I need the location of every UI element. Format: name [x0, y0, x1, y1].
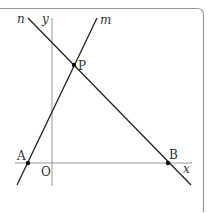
x-axis-label: x [183, 162, 190, 176]
point-p [72, 63, 76, 67]
line-m-label: m [100, 13, 111, 27]
coordinate-diagram: n y m P A O B x [0, 0, 211, 212]
point-b-label: B [169, 148, 178, 162]
y-axis-label: y [41, 12, 49, 26]
origin-label: O [41, 165, 51, 179]
frame-border [0, 9, 204, 213]
line-m [17, 18, 97, 185]
line-n-label: n [17, 12, 25, 26]
point-p-label: P [78, 59, 86, 73]
point-a-label: A [16, 149, 26, 163]
point-a [26, 161, 30, 165]
